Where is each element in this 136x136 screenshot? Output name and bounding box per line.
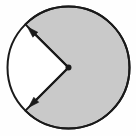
diagram-canvas xyxy=(0,0,136,136)
circle-sector-figure xyxy=(0,0,136,136)
center-vertex-dot xyxy=(66,65,72,71)
